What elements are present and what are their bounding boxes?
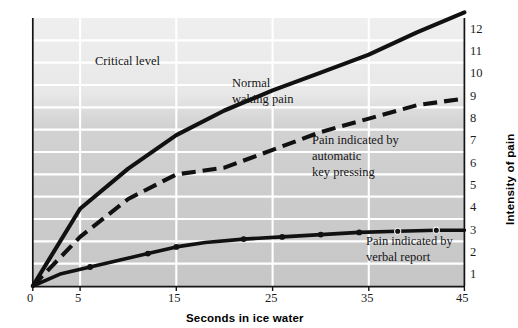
annotation-verbal-line1: Pain indicated by — [366, 234, 453, 248]
annotation-normal-waking-pain-line2: waking pain — [232, 92, 293, 106]
y-tick-label-8: 8 — [470, 111, 476, 125]
y-tick-label-5: 5 — [470, 178, 476, 192]
annotation-auto-key-line1: Pain indicated by — [312, 133, 399, 147]
x-axis-title: Seconds in ice water — [186, 312, 304, 325]
annotation-normal-waking-pain-line1: Normal — [232, 76, 270, 90]
annotation-critical-level: Critical level — [95, 54, 160, 68]
x-tick-label-35: 35 — [361, 291, 374, 305]
x-tick-label-0: 0 — [27, 291, 33, 305]
y-tick-label-7: 7 — [470, 133, 476, 147]
y-tick-label-9: 9 — [470, 89, 476, 103]
y-axis-title: Intensity of pain — [504, 133, 517, 225]
y-tick-label-4: 4 — [470, 200, 476, 214]
x-tick-label-5: 5 — [75, 291, 81, 305]
chart-canvas — [0, 0, 518, 328]
annotation-verbal-line2: verbal report — [366, 250, 430, 264]
y-tick-label-12: 12 — [470, 22, 483, 36]
pain-intensity-chart: 0 5 15 25 35 45 12 11 10 9 8 7 6 5 4 3 2… — [0, 0, 518, 328]
x-tick-label-45: 45 — [456, 291, 469, 305]
y-tick-label-3: 3 — [470, 223, 476, 237]
y-tick-label-10: 10 — [470, 66, 483, 80]
y-tick-label-6: 6 — [470, 156, 476, 170]
x-tick-label-25: 25 — [265, 291, 278, 305]
y-tick-label-11: 11 — [470, 44, 482, 58]
y-tick-label-2: 2 — [470, 245, 476, 259]
x-tick-label-15: 15 — [168, 291, 181, 305]
annotation-auto-key-line2: automatic — [312, 149, 361, 163]
annotation-auto-key-line3: key pressing — [312, 165, 375, 179]
y-tick-label-1: 1 — [470, 267, 476, 281]
